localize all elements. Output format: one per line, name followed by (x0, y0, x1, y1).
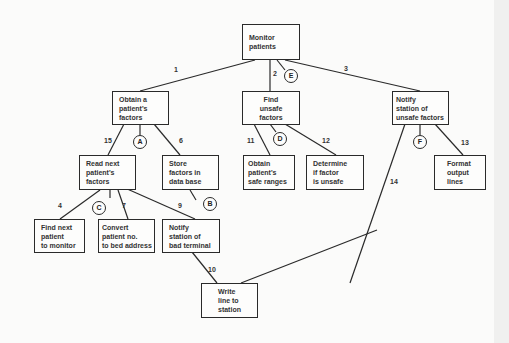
node-monitor-patients: Monitor patients (242, 24, 300, 60)
node-label: Monitor patients (243, 33, 276, 51)
edge-label-12: 12 (322, 137, 330, 144)
node-label: Obtain a patient's factors (113, 95, 148, 122)
node-find-next-patient: Find next patient to monitor (34, 219, 85, 253)
node-label: Write line to station (202, 287, 241, 314)
node-label: Read next patient's factors (80, 159, 119, 186)
node-label: Format output lines (435, 159, 471, 186)
edge-label-13: 13 (461, 139, 469, 146)
node-format-output-lines: Format output lines (434, 155, 486, 190)
node-label: Convert patient no. to bed address (99, 223, 152, 250)
edge-label-10: 10 (208, 266, 216, 273)
connector-b: B (203, 197, 217, 211)
node-determine-unsafe: Determine if factor is unsafe (306, 155, 364, 190)
edge-label-7: 7 (122, 202, 126, 209)
node-notify-bad-terminal: Notify station of bad terminal (162, 219, 220, 253)
edge-label-4: 4 (58, 202, 62, 209)
node-label: Find next patient to monitor (35, 223, 76, 250)
node-obtain-patient-factors: Obtain a patient's factors (112, 91, 169, 125)
connector-a: A (133, 135, 147, 149)
edge-label-1: 1 (174, 66, 178, 73)
node-write-line-to-station: Write line to station (201, 283, 258, 318)
node-label: Notify station of unsafe factors (393, 95, 444, 122)
edge-label-9: 9 (178, 202, 182, 209)
node-label: Store factors in data base (163, 159, 201, 186)
node-convert-patient-no: Convert patient no. to bed address (98, 219, 155, 253)
node-find-unsafe-factors: Find unsafe factors (242, 91, 300, 125)
node-store-factors: Store factors in data base (162, 155, 219, 190)
edge-label-14: 14 (390, 178, 398, 185)
connector-c: C (92, 201, 106, 215)
node-label: Find unsafe factors (243, 95, 299, 122)
edge-label-15: 15 (104, 137, 112, 144)
node-read-next-patient-factors: Read next patient's factors (79, 155, 136, 190)
edge-label-6: 6 (179, 137, 183, 144)
edge-label-2: 2 (273, 70, 277, 77)
connector-d: D (273, 132, 287, 146)
node-label: Determine if factor is unsafe (307, 159, 347, 186)
node-obtain-safe-ranges: Obtain patient's safe ranges (243, 155, 295, 190)
edge-label-11: 11 (247, 137, 254, 144)
connector-f: F (413, 135, 427, 149)
node-label: Obtain patient's safe ranges (244, 159, 287, 186)
edge-label-3: 3 (344, 65, 348, 72)
node-notify-unsafe-factors: Notify station of unsafe factors (392, 91, 449, 125)
node-label: Notify station of bad terminal (163, 223, 211, 250)
connector-e: E (284, 69, 298, 83)
